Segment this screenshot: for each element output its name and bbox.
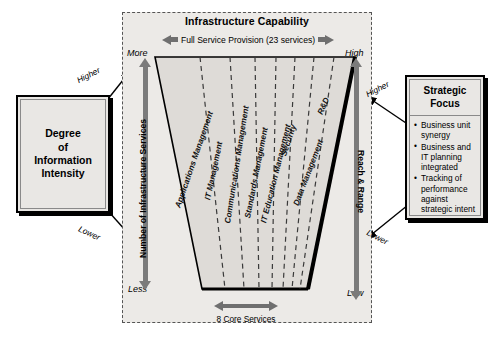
core-services-label: 8 Core Services xyxy=(186,314,306,324)
intensity-line-3: Information xyxy=(34,154,92,167)
arrow-right-icon xyxy=(325,35,334,45)
provision-label: Full Service Provision (23 services) xyxy=(178,35,318,45)
arrow-left-icon xyxy=(162,35,171,45)
list-item: Business unit synergy xyxy=(414,120,477,141)
measure-bar xyxy=(223,304,269,309)
scale-more: More xyxy=(127,48,148,58)
strategic-focus-box: Strategic Focus Business unit synergy Bu… xyxy=(405,75,485,220)
arrow-left-stem xyxy=(171,37,178,42)
strategic-focus-title-line-2: Focus xyxy=(412,98,478,111)
degree-of-information-intensity-box: Degree of Information Intensity xyxy=(16,95,110,213)
full-service-provision-band: Full Service Provision (23 services) xyxy=(132,32,364,47)
box-inner: Degree of Information Intensity xyxy=(20,99,106,209)
arrow-right-stem xyxy=(318,37,325,42)
connector-label-lower-left: Lower xyxy=(77,224,102,243)
region-title: Infrastructure Capability xyxy=(122,15,372,27)
intensity-line-1: Degree xyxy=(34,127,92,140)
intensity-text: Degree of Information Intensity xyxy=(34,127,92,181)
strategic-focus-title-line-1: Strategic xyxy=(412,85,478,98)
intensity-line-4: Intensity xyxy=(34,167,92,180)
strategic-focus-title: Strategic Focus xyxy=(410,80,480,116)
list-item: Tracking of performance against strategi… xyxy=(414,173,477,214)
measure-arrow-right-icon xyxy=(269,301,278,311)
scale-high: High xyxy=(345,48,364,58)
axis-arrow-down-icon xyxy=(350,291,362,300)
box-inner: Strategic Focus Business unit synergy Bu… xyxy=(409,79,481,216)
connector-label-higher-left: Higher xyxy=(75,65,102,85)
list-item: Business and IT planning integrated xyxy=(414,142,477,173)
axis-right-caption: Reach & Range xyxy=(356,150,366,213)
intensity-line-2: of xyxy=(34,141,92,154)
diagram-canvas: Infrastructure Capability Full Service P… xyxy=(0,0,496,338)
axis-left-caption: Number of Infrastructure Services xyxy=(138,119,148,258)
core-services-measure xyxy=(214,300,278,312)
measure-arrow-left-icon xyxy=(214,301,223,311)
infrastructure-capability-region xyxy=(122,12,372,323)
axis-arrow-down-icon xyxy=(139,281,151,290)
strategic-focus-bullets: Business unit synergy Business and IT pl… xyxy=(410,116,480,216)
